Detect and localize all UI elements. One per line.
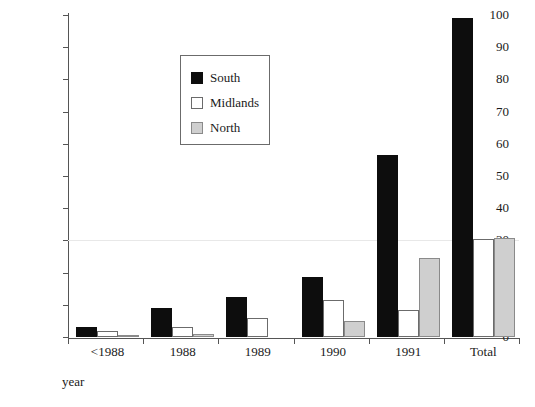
x-axis-category-label: 1989: [218, 344, 298, 360]
bar-chart: number of assessments year 0102030405060…: [0, 0, 535, 407]
legend-item-south: South: [191, 65, 269, 90]
bar-midlands-Total: [473, 239, 494, 337]
legend-swatch-south-icon: [191, 72, 203, 84]
x-axis-category-label: 1990: [293, 344, 373, 360]
x-axis-tick: [519, 338, 520, 344]
bar-south-1988: [151, 308, 172, 337]
bar-north-1988: [193, 334, 214, 337]
bar-group: [68, 15, 143, 337]
bar-south-1990: [302, 277, 323, 337]
bar-midlands-1989: [247, 318, 268, 337]
bar-north-Total: [494, 238, 515, 337]
bar-midlands-1988: [172, 327, 193, 337]
bar-group: [294, 15, 369, 337]
legend-swatch-north-icon: [191, 122, 203, 134]
bar-north-lt1988: [118, 335, 139, 337]
bar-north-1991: [419, 258, 440, 337]
legend-item-midlands: Midlands: [191, 90, 269, 115]
x-axis-category-label: <1988: [68, 344, 148, 360]
bar-midlands-1990: [323, 300, 344, 337]
x-axis-category-label: Total: [443, 344, 523, 360]
bar-south-1991: [377, 155, 398, 337]
legend-label-north: North: [210, 121, 240, 134]
bar-midlands-1991: [398, 310, 419, 337]
bar-south-Total: [452, 18, 473, 337]
bar-south-1989: [226, 297, 247, 337]
legend-label-midlands: Midlands: [210, 96, 259, 109]
bar-group: [444, 15, 519, 337]
bar-group: [369, 15, 444, 337]
legend-label-south: South: [210, 71, 240, 84]
bar-north-1990: [344, 321, 365, 337]
x-axis-category-label: 1991: [368, 344, 448, 360]
legend-swatch-midlands-icon: [191, 97, 203, 109]
legend-item-north: North: [191, 115, 269, 140]
bar-south-lt1988: [76, 327, 97, 337]
legend: South Midlands North: [180, 55, 270, 145]
x-axis-title: year: [62, 374, 84, 390]
bar-midlands-lt1988: [97, 331, 118, 337]
plot-area: 0102030405060708090100: [68, 15, 519, 337]
x-axis-category-label: 1988: [143, 344, 223, 360]
